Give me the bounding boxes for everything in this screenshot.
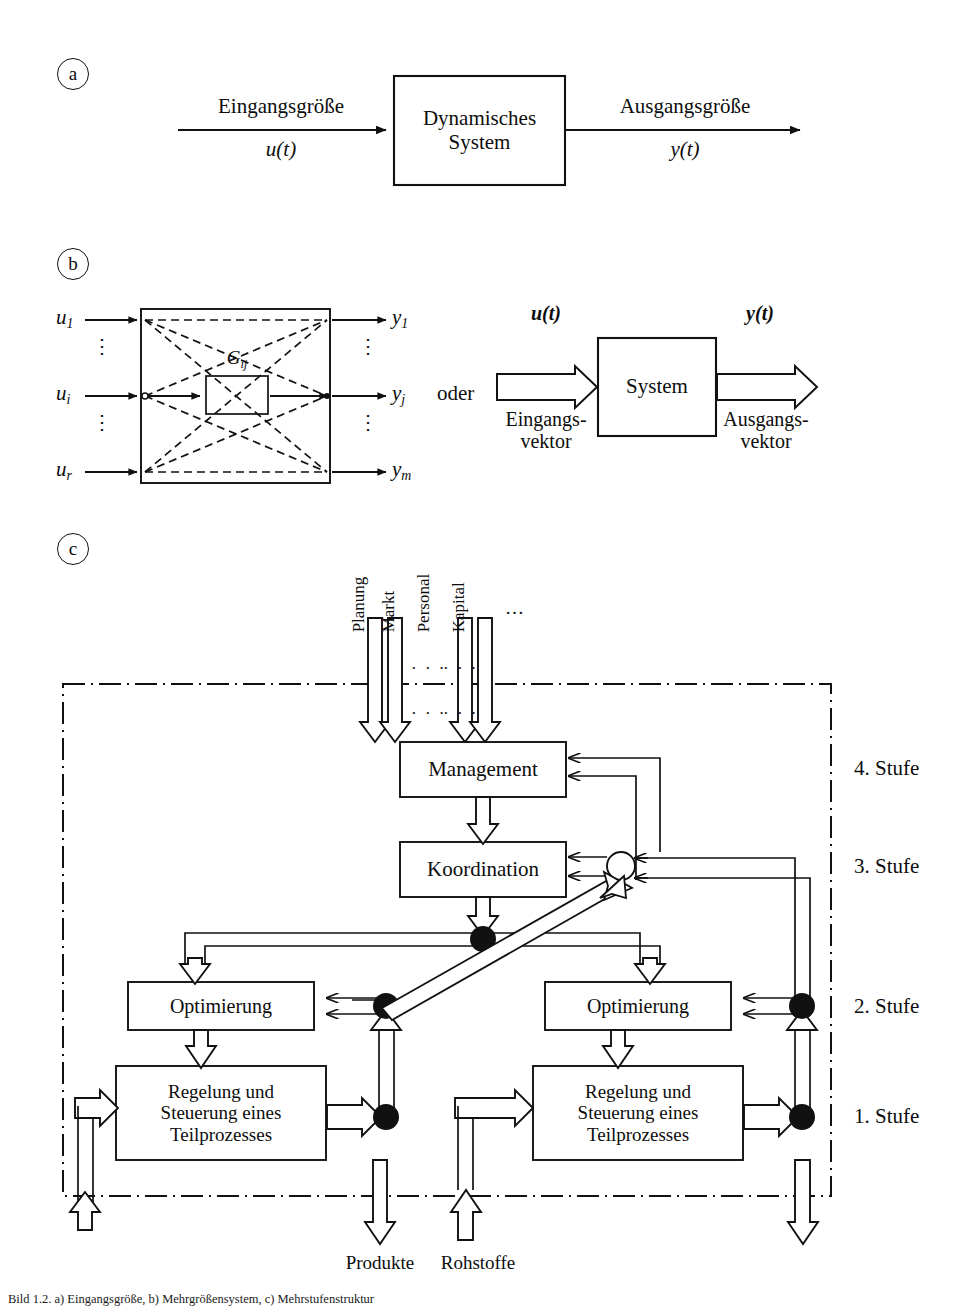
block-optimierung-left: Optimierung <box>128 982 314 1030</box>
inner-ellipsis-below-left: · · · <box>411 705 446 723</box>
stage-label-2: 2. Stufe <box>854 995 919 1018</box>
inner-ellipsis-below-right: · · · <box>443 705 478 723</box>
vector-output-signal: y(t) <box>746 303 774 325</box>
vector-input-signal: u(t) <box>531 303 561 325</box>
stage-label-1: 1. Stufe <box>854 1105 919 1128</box>
block-optimierung-right: Optimierung <box>545 982 731 1030</box>
input-vdots-top: ⋮ <box>92 336 112 358</box>
input-vdots-bottom: ⋮ <box>92 412 112 434</box>
block-management: Management <box>400 742 566 797</box>
panel-a-block-line1: Dynamisches <box>423 107 536 131</box>
input-label-ui: ui <box>56 382 70 408</box>
input-label-u1: u1 <box>56 306 73 332</box>
vector-output-name: Ausgangs- vektor <box>723 409 809 452</box>
output-label-yj: yj <box>392 382 405 408</box>
input-label-ur: ur <box>56 458 72 484</box>
top-input-ellipsis: … <box>505 598 524 619</box>
vector-system-block: System <box>598 338 716 436</box>
panel-tag-c: c <box>57 533 89 565</box>
stage-label-3: 3. Stufe <box>854 855 919 878</box>
top-input-label-planung: Planung <box>350 577 368 633</box>
top-input-label-personal: Personal <box>415 574 433 633</box>
block-regelung-left: Regelung und Steuerung eines Teilprozess… <box>116 1066 326 1160</box>
panel-a-output-label: Ausgangsgröße <box>620 95 751 118</box>
top-input-label-markt: Markt <box>380 591 398 633</box>
panel-tag-a: a <box>57 58 89 90</box>
figure-root: a b c Eingangsgröße u(t) Dynamisches Sys… <box>0 0 958 1312</box>
top-input-label-kapital: Kapital <box>450 582 468 632</box>
panel-tag-b: b <box>57 248 89 280</box>
inner-ellipsis-above-left: · · · <box>411 660 446 678</box>
panel-a-block-line2: System <box>449 131 511 155</box>
block-regelung-right: Regelung und Steuerung eines Teilprozess… <box>533 1066 743 1160</box>
figure-caption: Bild 1.2. a) Eingangsgröße, b) Mehrgröße… <box>8 1292 948 1308</box>
output-vdots-top: ⋮ <box>358 336 378 358</box>
panel-a-system-block: Dynamisches System <box>394 76 565 185</box>
inner-block-label-gij: Gij <box>227 348 248 372</box>
output-label-y1: y1 <box>392 306 408 332</box>
bottom-label-rohstoffe: Rohstoffe <box>441 1253 516 1274</box>
output-vdots-bottom: ⋮ <box>358 412 378 434</box>
panel-b-mimo-graphics <box>85 309 386 483</box>
panel-a-output-signal: y(t) <box>670 138 699 161</box>
stage-label-4: 4. Stufe <box>854 757 919 780</box>
inner-ellipsis-above-right: · · · <box>443 660 478 678</box>
panel-a-input-signal: u(t) <box>266 138 296 161</box>
output-label-ym: ym <box>392 458 411 484</box>
vector-input-name: Eingangs- vektor <box>505 409 586 452</box>
panel-b-conjunction: oder <box>437 382 474 405</box>
bottom-label-produkte: Produkte <box>346 1253 415 1274</box>
block-koordination: Koordination <box>400 842 566 897</box>
panel-a-input-label: Eingangsgröße <box>218 95 344 118</box>
